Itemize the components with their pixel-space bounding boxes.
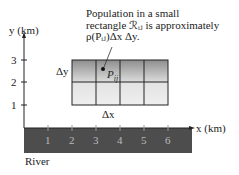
x-tick-5: 5: [141, 134, 147, 146]
annotation-caption: Population in a small rectangle ℛᵢⱼ is a…: [86, 8, 219, 43]
y-tick-3: 3: [11, 54, 17, 66]
x-tick-1: 1: [45, 134, 51, 146]
caption-line-3: ρ(Pᵢⱼ)Δx Δy.: [86, 31, 219, 43]
x-tick-2: 2: [69, 134, 75, 146]
delta-y-label: Δy: [56, 65, 69, 77]
region-grid: [72, 60, 168, 105]
river-label: River: [25, 155, 49, 167]
x-axis-label: x (km): [196, 122, 226, 134]
caption-line-1: Population in a small: [86, 8, 219, 20]
y-tick-1: 1: [11, 99, 17, 111]
x-tick-3: 3: [93, 134, 99, 146]
delta-x-label: Δx: [102, 108, 115, 120]
y-tick-2: 2: [11, 76, 17, 88]
x-tick-6: 6: [165, 134, 171, 146]
point-p-ij: [101, 67, 105, 71]
x-tick-4: 4: [117, 134, 123, 146]
y-axis-label: y (km): [9, 24, 39, 36]
point-label: Pij: [107, 68, 118, 85]
